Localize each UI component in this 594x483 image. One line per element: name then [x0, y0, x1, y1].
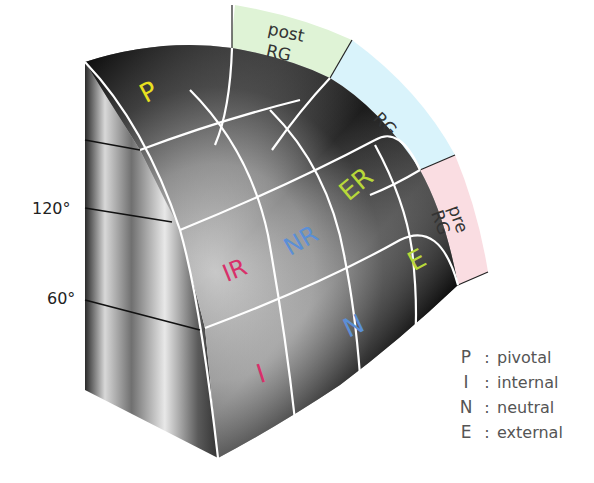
legend-item: E : external — [455, 420, 563, 445]
legend-item: N : neutral — [455, 395, 563, 420]
legend: P : pivotal I : internal N : neutral E :… — [455, 345, 563, 445]
angle-label-60: 60° — [47, 289, 75, 308]
legend-item: I : internal — [455, 370, 563, 395]
legend-item: P : pivotal — [455, 345, 563, 370]
angle-label-120: 120° — [32, 199, 71, 218]
